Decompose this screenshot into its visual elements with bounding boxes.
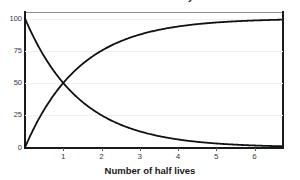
curve-layer	[0, 0, 300, 180]
growth-curve	[25, 20, 282, 148]
chart-container: Radioactive decay 0255075100 123456 Numb…	[0, 0, 300, 180]
x-axis-title: Number of half lives	[0, 165, 300, 176]
